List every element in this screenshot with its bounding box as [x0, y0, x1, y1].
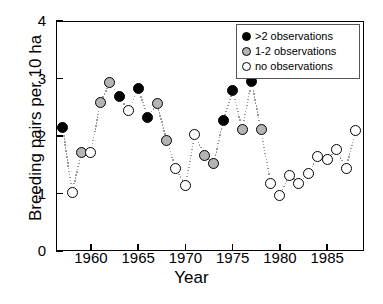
- connector-dot: [239, 119, 241, 121]
- x-tick-label: 1975: [210, 250, 256, 265]
- connector-dot: [216, 151, 218, 153]
- legend-label: 1-2 observations: [255, 46, 336, 57]
- connector-dot: [65, 150, 67, 152]
- x-tick-label: 1985: [304, 250, 350, 265]
- connector-dot: [95, 125, 97, 127]
- y-tick: [56, 250, 63, 252]
- connector-dot: [187, 170, 189, 172]
- connector-dot: [348, 156, 350, 158]
- y-tick-label: 4: [24, 13, 46, 28]
- connector-dot: [249, 90, 251, 92]
- data-point: [133, 83, 144, 94]
- connector-dot: [144, 108, 146, 110]
- data-point: [142, 112, 153, 123]
- y-tick: [56, 193, 63, 195]
- x-axis-title: Year: [0, 268, 383, 288]
- connector-dot: [190, 155, 192, 157]
- connector-dot: [67, 165, 69, 167]
- connector-dot: [159, 112, 161, 114]
- connector-dot: [66, 156, 68, 158]
- y-tick: [56, 135, 63, 137]
- connector-dot: [350, 148, 352, 150]
- data-point: [95, 97, 106, 108]
- x-tick-label: 1965: [115, 250, 161, 265]
- connector-dot: [171, 154, 173, 156]
- connector-dot: [254, 99, 256, 101]
- data-point: [322, 154, 333, 165]
- data-point: [341, 163, 352, 174]
- data-point: [152, 98, 163, 109]
- connector-dot: [186, 176, 188, 178]
- figure: Breeding pairs per 10 ha 01234 196019651…: [0, 0, 383, 304]
- connector-dot: [163, 130, 165, 132]
- connector-dot: [153, 108, 155, 110]
- connector-dot: [95, 128, 97, 130]
- connector-dot: [76, 171, 78, 173]
- open-circle-icon: [242, 62, 251, 71]
- connector-dot: [104, 93, 106, 95]
- connector-dot: [64, 144, 66, 146]
- connector-dot: [75, 174, 77, 176]
- connector-dot: [171, 157, 173, 159]
- data-point: [180, 180, 191, 191]
- connector-dot: [140, 96, 142, 98]
- connector-dot: [67, 159, 69, 161]
- connector-dot: [267, 168, 269, 170]
- connector-dot: [257, 111, 259, 113]
- connector-dot: [266, 162, 268, 164]
- data-point: [284, 170, 295, 181]
- filled-circle-icon: [242, 32, 251, 41]
- connector-dot: [257, 114, 259, 116]
- connector-dot: [132, 102, 134, 104]
- legend: >2 observations 1-2 observations no obse…: [236, 24, 360, 79]
- connector-dot: [268, 171, 270, 173]
- connector-dot: [63, 135, 65, 137]
- connector-dot: [267, 165, 269, 167]
- connector-dot: [350, 151, 352, 153]
- gray-circle-icon: [242, 47, 251, 56]
- connector-dot: [160, 118, 162, 120]
- connector-dot: [219, 134, 221, 136]
- connector-dot: [244, 114, 246, 116]
- connector-dot: [161, 121, 163, 123]
- connector-dot: [178, 174, 180, 176]
- connector-dot: [243, 120, 245, 122]
- connector-dot: [216, 148, 218, 150]
- connector-dot: [64, 138, 66, 140]
- connector-dot: [236, 108, 238, 110]
- legend-label: >2 observations: [255, 31, 333, 42]
- connector-dot: [70, 183, 72, 185]
- data-point: [57, 122, 68, 133]
- connector-dot: [105, 90, 107, 92]
- legend-item-1-2: 1-2 observations: [242, 44, 354, 58]
- connector-dot: [172, 159, 174, 161]
- connector-dot: [234, 99, 236, 101]
- y-tick-label: 3: [24, 71, 46, 86]
- data-point: [237, 124, 248, 135]
- data-point: [161, 135, 172, 146]
- y-tick: [56, 20, 63, 22]
- connector-dot: [347, 159, 349, 161]
- connector-dot: [266, 159, 268, 161]
- connector-dot: [351, 145, 353, 147]
- x-tick-label: 1970: [162, 250, 208, 265]
- connector-dot: [64, 141, 66, 143]
- connector-dot: [188, 167, 190, 169]
- data-point: [67, 187, 78, 198]
- data-point: [218, 115, 229, 126]
- x-tick-label: 1960: [68, 250, 114, 265]
- connector-dot: [74, 180, 76, 182]
- connector-dot: [141, 99, 143, 101]
- x-tick-label: 1980: [257, 250, 303, 265]
- connector-dot: [96, 119, 98, 121]
- connector-dot: [159, 115, 161, 117]
- connector-dot: [268, 173, 270, 175]
- y-tick-label: 1: [24, 186, 46, 201]
- data-point: [265, 178, 276, 189]
- y-tick-label: 0: [24, 243, 46, 258]
- connector-dot: [192, 143, 194, 145]
- connector-dot: [123, 103, 125, 105]
- connector-dot: [67, 162, 69, 164]
- connector-dot: [256, 105, 258, 107]
- legend-item-more-than-2: >2 observations: [242, 29, 354, 43]
